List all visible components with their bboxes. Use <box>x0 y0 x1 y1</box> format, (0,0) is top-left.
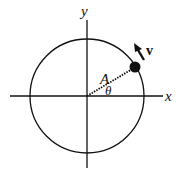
particle-dot <box>130 62 141 73</box>
velocity-arrow-icon <box>134 43 144 60</box>
y-axis-label: y <box>79 3 88 19</box>
velocity-label: v <box>146 43 153 58</box>
circular-motion-diagram: y x v A θ <box>0 0 176 172</box>
angle-label: θ <box>105 83 112 98</box>
x-axis-label: x <box>164 88 172 104</box>
